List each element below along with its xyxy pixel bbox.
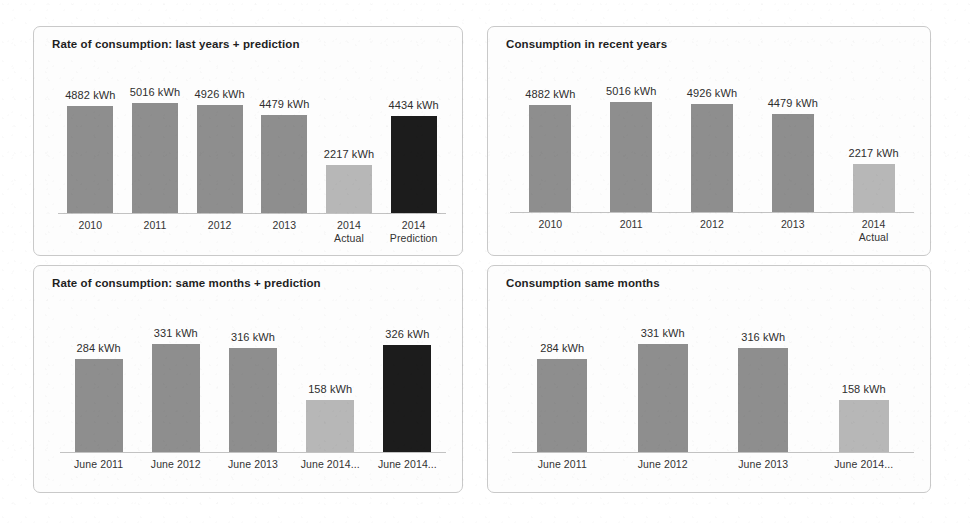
bar-value-label: 4882 kWh — [58, 89, 123, 101]
bar-value-label: 158 kWh — [814, 383, 915, 395]
bar-normal[interactable] — [691, 104, 733, 212]
bar-rect — [691, 104, 733, 212]
bar-rect — [738, 348, 788, 452]
bar-actual[interactable] — [306, 400, 354, 452]
category-label: June 2011 — [512, 458, 613, 471]
panel-rate-last-years-prediction: Rate of consumption: last years + predic… — [33, 26, 463, 256]
category-label: 2012 — [187, 219, 252, 232]
bar-rect — [229, 348, 277, 452]
bar-normal[interactable] — [537, 359, 587, 452]
bar-value-label: 5016 kWh — [123, 86, 188, 98]
bar-value-label: 4479 kWh — [252, 98, 317, 110]
category-label: 2013 — [752, 218, 833, 231]
category-label: June 2012 — [613, 458, 714, 471]
bar-normal[interactable] — [261, 115, 307, 213]
plot-area: 4882 kWh20105016 kWh20114926 kWh20124479… — [488, 27, 930, 255]
bar-actual[interactable] — [326, 165, 372, 213]
category-label: June 2014... — [369, 458, 446, 471]
plot-area: 4882 kWh20105016 kWh20114926 kWh20124479… — [34, 27, 462, 255]
bar-normal[interactable] — [610, 102, 652, 212]
category-label: 2011 — [123, 219, 188, 232]
bar-value-label: 158 kWh — [292, 383, 369, 395]
category-label: 2013 — [252, 219, 317, 232]
bar-value-label: 331 kWh — [613, 327, 714, 339]
category-label: 2011 — [591, 218, 672, 231]
bar-normal[interactable] — [229, 348, 277, 452]
bar-normal[interactable] — [152, 344, 200, 452]
bar-actual[interactable] — [853, 164, 895, 212]
bar-rect — [638, 344, 688, 452]
category-label: June 2014... — [292, 458, 369, 471]
bar-value-label: 4926 kWh — [672, 87, 753, 99]
bar-rect — [306, 400, 354, 452]
x-axis-line — [58, 213, 446, 214]
bar-actual[interactable] — [839, 400, 889, 452]
charts-dashboard: Rate of consumption: last years + predic… — [0, 0, 970, 523]
category-label: June 2013 — [713, 458, 814, 471]
category-label: June 2011 — [60, 458, 137, 471]
bar-normal[interactable] — [772, 114, 814, 212]
bar-normal[interactable] — [75, 359, 123, 452]
bar-normal[interactable] — [738, 348, 788, 452]
bar-rect — [132, 103, 178, 213]
bar-rect — [853, 164, 895, 212]
panel-consumption-recent-years: Consumption in recent years 4882 kWh2010… — [487, 26, 931, 256]
bar-normal[interactable] — [197, 105, 243, 213]
bar-normal[interactable] — [638, 344, 688, 452]
bar-normal[interactable] — [529, 105, 571, 212]
bar-rect — [610, 102, 652, 212]
bar-rect — [326, 165, 372, 213]
bar-rect — [839, 400, 889, 452]
category-label: June 2012 — [137, 458, 214, 471]
bar-prediction[interactable] — [383, 345, 431, 452]
bar-rect — [261, 115, 307, 213]
bar-value-label: 4882 kWh — [510, 88, 591, 100]
bar-value-label: 2217 kWh — [833, 147, 914, 159]
bar-value-label: 316 kWh — [713, 331, 814, 343]
plot-area: 284 kWhJune 2011331 kWhJune 2012316 kWhJ… — [488, 266, 930, 492]
plot-area: 284 kWhJune 2011331 kWhJune 2012316 kWhJ… — [34, 266, 462, 492]
category-label: 2010 — [58, 219, 123, 232]
bar-value-label: 284 kWh — [512, 342, 613, 354]
bar-rect — [197, 105, 243, 213]
category-label: 2012 — [672, 218, 753, 231]
category-label: 2014 Actual — [317, 219, 382, 245]
bar-value-label: 331 kWh — [137, 327, 214, 339]
bar-rect — [67, 106, 113, 213]
category-label: 2014 Actual — [833, 218, 914, 244]
bar-rect — [772, 114, 814, 212]
bar-rect — [383, 345, 431, 452]
category-label: 2014 Prediction — [381, 219, 446, 245]
x-axis-line — [60, 452, 446, 453]
category-label: June 2013 — [214, 458, 291, 471]
bar-value-label: 316 kWh — [214, 331, 291, 343]
panel-rate-same-months-prediction: Rate of consumption: same months + predi… — [33, 265, 463, 493]
bar-normal[interactable] — [132, 103, 178, 213]
bar-rect — [537, 359, 587, 452]
bar-prediction[interactable] — [391, 116, 437, 213]
panel-consumption-same-months: Consumption same months 284 kWhJune 2011… — [487, 265, 931, 493]
x-axis-line — [512, 452, 914, 453]
bar-rect — [391, 116, 437, 213]
bar-rect — [529, 105, 571, 212]
bar-value-label: 284 kWh — [60, 342, 137, 354]
category-label: June 2014... — [814, 458, 915, 471]
bar-value-label: 5016 kWh — [591, 85, 672, 97]
bar-value-label: 4479 kWh — [752, 97, 833, 109]
bar-value-label: 326 kWh — [369, 328, 446, 340]
bar-value-label: 2217 kWh — [317, 148, 382, 160]
x-axis-line — [510, 212, 914, 213]
bar-value-label: 4434 kWh — [381, 99, 446, 111]
category-label: 2010 — [510, 218, 591, 231]
bar-value-label: 4926 kWh — [187, 88, 252, 100]
bar-rect — [75, 359, 123, 452]
bar-normal[interactable] — [67, 106, 113, 213]
bar-rect — [152, 344, 200, 452]
